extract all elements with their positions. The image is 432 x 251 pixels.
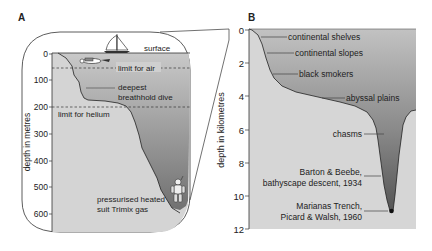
breathhold-label-1: deepest — [118, 83, 147, 92]
tick-a-0: 0 — [43, 49, 48, 59]
tick-a-600: 600 — [34, 209, 48, 219]
tick-a-100: 100 — [34, 75, 48, 85]
tick-b-8: 8 — [239, 158, 244, 169]
barton-beebe-label-2: bathyscape descent, 1934 — [263, 178, 363, 188]
chasms-label: chasms — [333, 129, 362, 139]
suit-label-1: pressurised heated — [97, 195, 165, 204]
continental-slopes-label: continental slopes — [295, 48, 363, 58]
panel-b-label: B — [248, 12, 255, 23]
breathhold-label-2: breathhold dive — [118, 93, 173, 102]
continental-shelves-label: continental shelves — [288, 32, 360, 42]
panel-a-y-axis-label: depth in metres — [22, 113, 32, 172]
tick-a-300: 300 — [34, 129, 48, 139]
tick-b-10: 10 — [233, 191, 244, 202]
barton-beebe-label-1: Barton & Beebe, — [300, 167, 362, 177]
ocean-depth-diagram: A 0 100 200 300 400 500 600 depth in met… — [0, 0, 432, 251]
limit-helium-label: limit for helium — [58, 110, 110, 119]
panel-b-ticks: 0 2 4 6 8 10 12 — [233, 25, 249, 235]
tick-a-400: 400 — [34, 156, 48, 166]
black-smokers-label: black smokers — [299, 69, 353, 79]
surface-label: surface — [144, 44, 171, 53]
panel-a-label: A — [18, 12, 25, 23]
zoom-connector-top — [160, 29, 229, 32]
tick-b-2: 2 — [239, 58, 244, 69]
tick-b-12: 12 — [233, 224, 244, 235]
marianas-trench-point — [389, 209, 394, 214]
limit-air-label: limit for air — [118, 64, 155, 73]
tick-a-200: 200 — [34, 102, 48, 112]
tick-a-500: 500 — [34, 182, 48, 192]
marianas-label-2: Picard & Walsh, 1960 — [281, 212, 363, 222]
panel-b-y-axis-label: depth in kilometres — [216, 92, 226, 168]
marianas-label-1: Marianas Trench, — [296, 201, 362, 211]
suit-label-2: suit Trimix gas — [97, 205, 148, 214]
tick-b-6: 6 — [239, 125, 244, 136]
tick-b-4: 4 — [239, 91, 244, 102]
tick-b-0: 0 — [239, 25, 244, 36]
abyssal-plains-label: abyssal plains — [346, 93, 399, 103]
